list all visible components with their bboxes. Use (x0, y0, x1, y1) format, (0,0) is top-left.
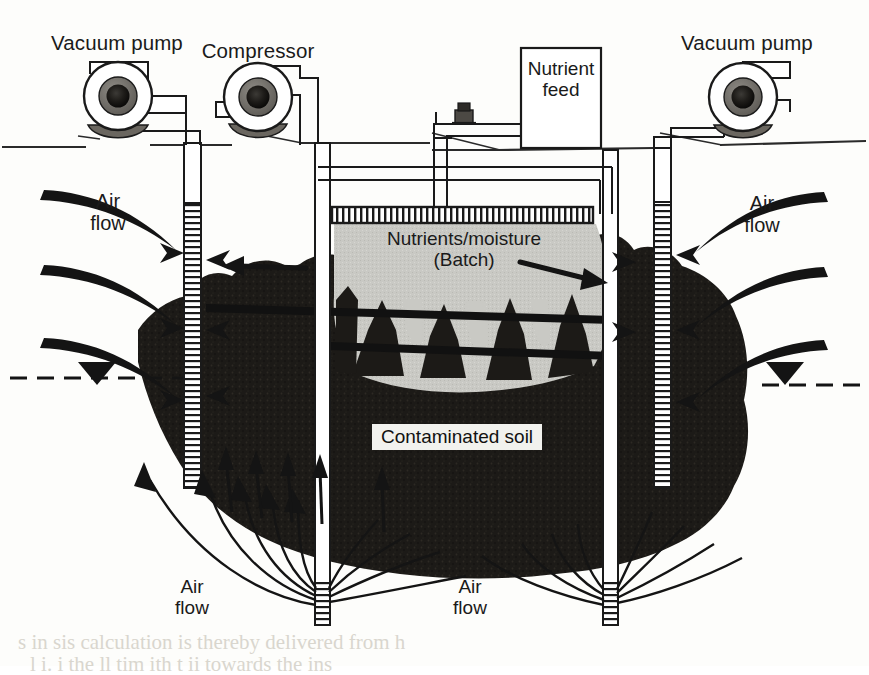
extraction-well-left (184, 143, 201, 488)
bleedthrough-text-line2: l i. i the ll tim ith t ii towards the i… (30, 652, 332, 675)
extraction-well-right (654, 148, 671, 488)
label-compressor: Compressor (168, 40, 348, 63)
label-nutrients-moisture-batch: Nutrients/moisture (Batch) (340, 228, 588, 271)
label-contaminated-soil: Contaminated soil (372, 408, 542, 447)
label-nutrient-feed: Nutrient feed (521, 58, 601, 101)
injection-well-right (603, 150, 618, 625)
label-air-flow-bottom-left: Air flow (142, 576, 242, 619)
label-air-flow-bottom-right: Air flow (420, 576, 520, 619)
label-air-flow-left: Air flow (58, 190, 158, 235)
label-vacuum-pump-right: Vacuum pump (652, 32, 842, 55)
injection-well-left (315, 143, 330, 625)
label-air-flow-right: Air flow (712, 192, 812, 237)
contaminated-soil-text: Contaminated soil (372, 424, 542, 450)
